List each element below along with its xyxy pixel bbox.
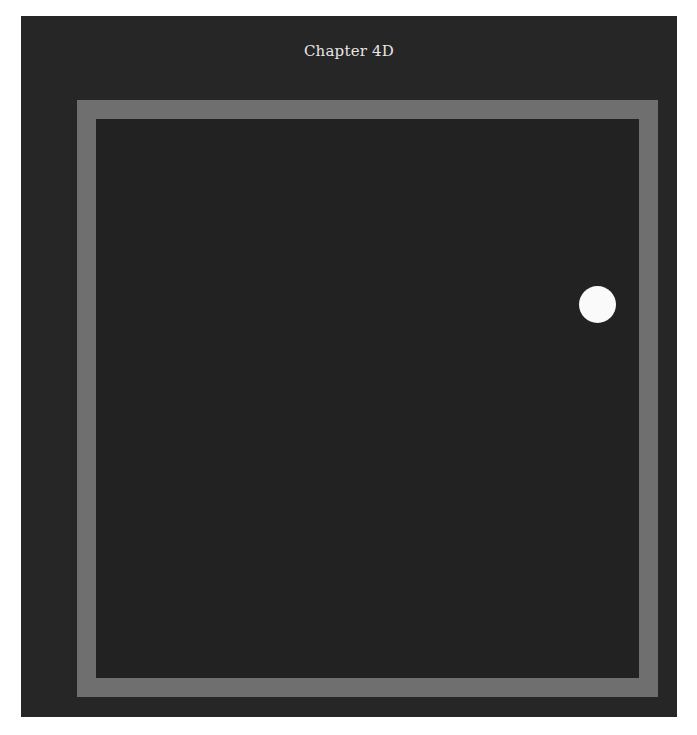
ball [579, 286, 616, 323]
game-canvas[interactable]: Chapter 4D [21, 16, 677, 717]
arena-wall-frame [77, 100, 658, 697]
chapter-title: Chapter 4D [21, 42, 677, 60]
